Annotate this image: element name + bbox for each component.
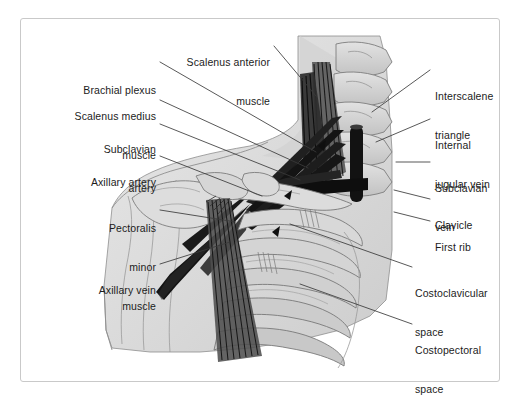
label-line: Costoclavicular — [415, 287, 519, 300]
label-axillary-vein: Axillary vein — [60, 258, 156, 323]
label-line: Axillary artery — [48, 176, 156, 189]
label-line: Axillary vein — [60, 284, 156, 297]
label-line: Scalenus anterior — [166, 56, 270, 69]
label-line: Pectoralis — [58, 222, 156, 235]
label-line: Interscalene — [435, 90, 517, 103]
leader-clavicle — [394, 190, 430, 199]
label-costopectoral-space: Costopectoral space — [415, 318, 519, 405]
label-line: First rib — [435, 241, 517, 254]
leader-first-rib — [394, 212, 430, 221]
label-line: Internal — [435, 139, 517, 152]
label-line: Costopectoral — [415, 344, 519, 357]
label-line: space — [415, 383, 519, 396]
label-line: muscle — [166, 95, 270, 108]
label-scalenus-anterior: Scalenus anterior muscle — [166, 30, 270, 134]
figure-root: Scalenus anterior muscle Brachial plexus… — [0, 0, 520, 405]
